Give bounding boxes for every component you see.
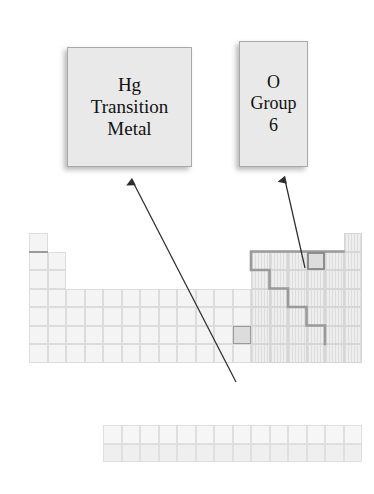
arrow-o bbox=[285, 180, 305, 268]
hydrogen-underline bbox=[29, 251, 48, 253]
callout-mercury-line-3: Metal bbox=[107, 118, 151, 140]
ptable-cell-o bbox=[307, 252, 326, 271]
callout-mercury-line-1: Hg bbox=[118, 74, 141, 96]
callout-mercury-line-2: Transition bbox=[91, 96, 168, 118]
figure-canvas: Hg Transition Metal O Group 6 bbox=[0, 0, 374, 494]
arrow-hg bbox=[133, 182, 236, 382]
callout-oxygen: O Group 6 bbox=[239, 41, 308, 167]
ptable-cell-hg bbox=[233, 326, 252, 345]
callout-oxygen-line-1: O bbox=[267, 72, 280, 93]
callout-oxygen-line-3: 6 bbox=[269, 115, 278, 136]
callout-oxygen-line-2: Group bbox=[251, 93, 297, 114]
callout-mercury: Hg Transition Metal bbox=[67, 47, 192, 167]
